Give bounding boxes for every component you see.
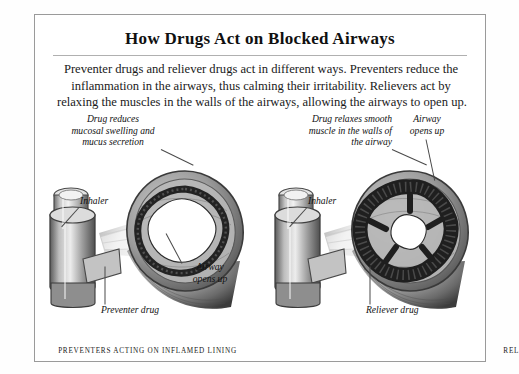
title-divider (53, 55, 467, 56)
label-drug-name: Preventer drug (101, 304, 159, 316)
panel-preventer: Drug reduces mucosal swelling and mucus … (35, 111, 260, 336)
label-drug-action: Drug relaxes smooth muscle in the walls … (264, 113, 392, 148)
caption-preventer: PREVENTERS ACTING ON INFLAMED LINING (35, 347, 260, 355)
illustration-stage: Drug reduces mucosal swelling and mucus … (35, 111, 485, 336)
airway-lumen (391, 215, 426, 250)
intro-line-1: Preventer drugs and reliever drugs act i… (57, 61, 465, 78)
label-airway-opens: Airway opens up (400, 113, 454, 136)
label-inhaler: Inhaler (80, 195, 108, 207)
intro-line-3: relaxing the muscles in the walls of the… (57, 94, 465, 111)
caption-reliever: RELIEVERS ACTING ON CONTRACTED MUSCLE (485, 347, 519, 355)
leader-drug-name (370, 267, 371, 305)
label-airway-opens: Airway opens up (181, 261, 239, 284)
page-title: How Drugs Act on Blocked Airways (35, 29, 485, 49)
intro-paragraph: Preventer drugs and reliever drugs act i… (57, 61, 465, 111)
intro-line-2: inflammation in the airways, thus calmin… (57, 78, 465, 95)
page-canvas: How Drugs Act on Blocked Airways Prevent… (0, 0, 519, 374)
label-inhaler: Inhaler (308, 195, 336, 207)
panel-reliever: Drug relaxes smooth muscle in the walls … (260, 111, 485, 336)
illustration-frame: How Drugs Act on Blocked Airways Prevent… (34, 14, 486, 362)
label-drug-action: Drug reduces mucosal swelling and mucus … (53, 113, 173, 148)
leader-drug-name (105, 267, 106, 305)
label-drug-name: Reliever drug (366, 304, 418, 316)
